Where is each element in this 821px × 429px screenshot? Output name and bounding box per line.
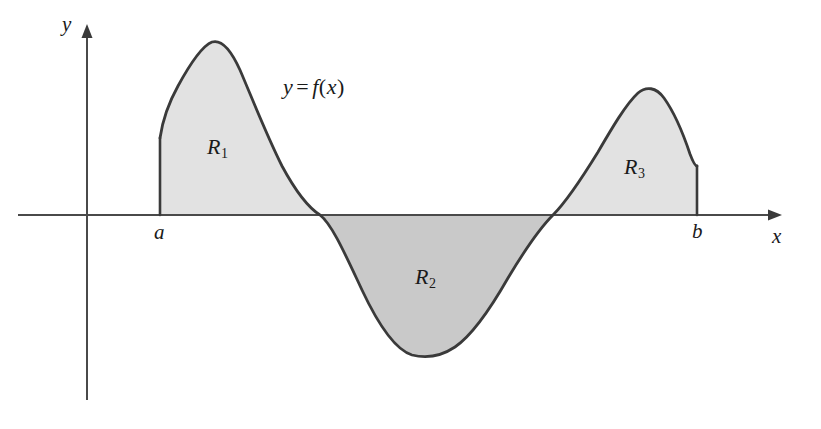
function-label-argument: x [327, 74, 337, 99]
x-axis-label: x [772, 226, 781, 247]
region-label-r3-base: R [624, 154, 637, 179]
lower-bound-label-a: a [154, 222, 165, 243]
region-label-r3: R3 [624, 156, 645, 181]
region-label-r2-subscript: 2 [428, 276, 436, 291]
function-plot-svg [0, 0, 821, 429]
upper-bound-label-b: b [692, 221, 703, 242]
figure-canvas: y x a b y=f(x) R1 R2 R3 [0, 0, 821, 429]
region-label-r3-subscript: 3 [637, 166, 645, 181]
x-axis-arrowhead [768, 210, 782, 221]
region-label-r1: R1 [207, 136, 228, 161]
shaded-region-r2 [320, 215, 553, 356]
function-label-close-paren: ) [337, 74, 345, 99]
function-label: y=f(x) [283, 76, 345, 98]
y-axis-arrowhead [82, 24, 93, 38]
function-label-operator: = [293, 74, 312, 99]
function-label-fname: f [312, 74, 319, 99]
region-label-r2-base: R [415, 264, 428, 289]
region-label-r2: R2 [415, 266, 436, 291]
function-label-lhs: y [283, 74, 293, 99]
function-label-open-paren: ( [319, 74, 327, 99]
region-label-r1-subscript: 1 [220, 146, 228, 161]
y-axis-label: y [62, 14, 71, 35]
region-label-r1-base: R [207, 134, 220, 159]
